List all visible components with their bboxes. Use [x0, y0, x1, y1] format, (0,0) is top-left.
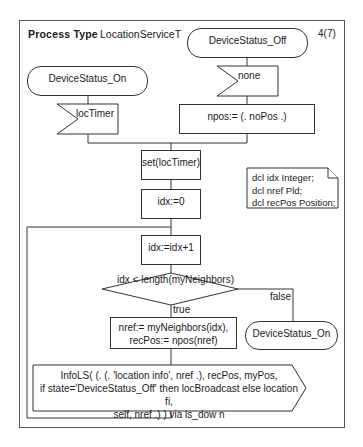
page-number: 4(7) [318, 28, 336, 39]
process-type-keyword: Process Type [28, 28, 98, 40]
task-nref-assign[interactable]: nref:= myNeighbors(idx), recPos:= npos(n… [110, 317, 237, 349]
task-label: idx:=idx+1 [148, 241, 194, 254]
decision-false-label: false [270, 291, 291, 302]
state-label: DeviceStatus_On [253, 328, 331, 339]
task-line: nref:= myNeighbors(idx), [119, 321, 229, 334]
nextstate-device-status-on[interactable]: DeviceStatus_On [245, 321, 338, 350]
output-signal-infols[interactable]: InfoLS( (. (. 'location info', nref .), … [38, 369, 300, 421]
task-npos-assign[interactable]: npos:= (. noPos .) [179, 104, 315, 134]
task-idx-init[interactable]: idx:=0 [141, 189, 201, 219]
task-set-timer[interactable]: set(locTimer) [141, 150, 201, 180]
state-device-status-off[interactable]: DeviceStatus_Off [187, 28, 308, 58]
output-line: InfoLS( (. (. 'location info', nref .), … [38, 369, 300, 382]
declaration-line: dcl recPos Position; [252, 197, 335, 210]
decision-condition[interactable]: idx < length(myNeighbors) [117, 274, 225, 285]
task-label: set(locTimer) [142, 156, 200, 169]
output-line: self, nref .) ) via ls_dow n [38, 408, 300, 421]
state-label: DeviceStatus_Off [209, 35, 287, 46]
process-type-name: LocationServiceT [100, 28, 181, 40]
output-line: if state='DeviceStatus_Off' then locBroa… [38, 382, 300, 408]
state-device-status-on[interactable]: DeviceStatus_On [27, 66, 148, 96]
declaration-line: dcl nref Pld; [252, 185, 335, 198]
sdl-process-diagram: Process Type LocationServiceT 4(7) Devic… [0, 0, 363, 447]
decision-true-label: true [173, 304, 190, 315]
task-line: recPos:= npos(nref) [119, 334, 229, 347]
declaration-line: dcl idx Integer; [252, 172, 335, 185]
state-label: DeviceStatus_On [49, 73, 127, 84]
input-loctimer-label[interactable]: locTimer [76, 108, 114, 119]
task-idx-increment[interactable]: idx:=idx+1 [141, 235, 201, 265]
declarations-text-box[interactable]: dcl idx Integer; dcl nref Pld; dcl recPo… [252, 172, 335, 210]
task-label: npos:= (. noPos .) [207, 110, 286, 123]
input-none-label[interactable]: none [238, 70, 260, 81]
task-label: idx:=0 [158, 195, 185, 208]
